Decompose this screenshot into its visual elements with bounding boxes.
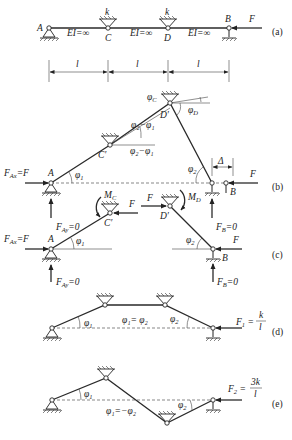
svg-text:φ2: φ2: [178, 400, 187, 411]
angle-diff-label: φ₂−φ₁: [130, 146, 154, 156]
svg-text:FB=0: FB=0: [215, 222, 237, 233]
node-label-a: A: [47, 168, 54, 178]
svg-text:φ2: φ2: [170, 314, 179, 325]
span-label: l: [76, 59, 79, 69]
stiffness-label: EI=∞: [66, 28, 89, 38]
moment-arrow-icon: [96, 197, 101, 217]
node-label-c: C: [105, 33, 112, 43]
svg-text:φ1: φ1: [84, 389, 93, 400]
angle-diff-label: φ₂−φ₁: [131, 120, 155, 130]
svg-text:FAx=F: FAx=F: [3, 168, 29, 179]
span-label: l: [136, 59, 139, 69]
svg-text:φ2: φ2: [186, 235, 195, 246]
svg-text:l: l: [254, 389, 257, 399]
panel-label-e: (e): [272, 399, 283, 410]
svg-text:FAy=0: FAy=0: [55, 277, 80, 288]
svg-text:A: A: [47, 234, 54, 244]
node-label-d: D′: [159, 110, 170, 120]
svg-text:l: l: [259, 322, 262, 332]
spring-label: k: [165, 7, 170, 17]
angle-relation-label: φ₁= φ₂: [122, 315, 149, 325]
svg-text:D′: D′: [159, 211, 170, 221]
svg-text:φ1: φ1: [75, 170, 84, 181]
force-label: F: [249, 169, 256, 179]
svg-text:F: F: [146, 193, 153, 203]
svg-text:FAy=0: FAy=0: [55, 222, 80, 233]
svg-text:k: k: [259, 310, 264, 320]
panel-label-b: (b): [272, 182, 283, 193]
moment-arrow-icon: [180, 190, 185, 210]
svg-text:φ2: φ2: [188, 164, 197, 175]
panel-a: A C D B F k k EI=∞ EI=∞ EI=∞ (a) l l l: [36, 7, 283, 82]
node-label-b: B: [225, 14, 231, 24]
panel-c: FAx=F A C′ MC F φ1 F MD D′ B F φ2 FAy=0 …: [3, 190, 283, 288]
svg-text:FAx=F: FAx=F: [3, 234, 29, 245]
svg-text:3k: 3k: [250, 377, 261, 387]
panel-label-d: (d): [272, 327, 283, 338]
svg-text:C′: C′: [104, 218, 113, 228]
force-label: F: [248, 14, 255, 24]
svg-text:φ1: φ1: [76, 236, 85, 247]
panel-d: φ1 φ2 φ₁= φ₂ F1 = k l (d): [43, 293, 283, 341]
span-label: l: [197, 59, 200, 69]
svg-text:F1 =: F1 =: [235, 317, 254, 328]
structural-diagram: A C D B F k k EI=∞ EI=∞ EI=∞ (a) l l l: [0, 0, 292, 440]
node-label-c: C′: [98, 150, 107, 160]
svg-text:φD: φD: [188, 105, 198, 116]
node-label-d: D: [163, 33, 171, 43]
panel-label-c: (c): [272, 250, 283, 261]
svg-text:MD: MD: [187, 192, 201, 203]
svg-text:MC: MC: [103, 190, 117, 201]
panel-b: Δ FAx=F A C′ D′ B F φ1 φ2 φC φD φ₂−φ₁ φ₂…: [3, 91, 283, 233]
svg-text:F2 =: F2 =: [227, 384, 246, 395]
svg-text:φ1: φ1: [84, 318, 93, 329]
angle-relation-label: φ₁=−φ₂: [106, 406, 137, 416]
node-label-b: B: [230, 187, 236, 197]
svg-text:FB=0: FB=0: [216, 277, 238, 288]
node-label-a: A: [36, 23, 43, 33]
stiffness-label: EI=∞: [129, 28, 152, 38]
svg-text:B: B: [222, 253, 228, 263]
stiffness-label: EI=∞: [187, 28, 210, 38]
delta-label: Δ: [217, 156, 224, 166]
svg-text:F: F: [232, 235, 239, 245]
svg-text:F: F: [128, 199, 135, 209]
svg-text:φC: φC: [147, 92, 157, 103]
spring-label: k: [105, 7, 110, 17]
panel-label-a: (a): [272, 27, 283, 38]
panel-e: φ1 φ2 φ₁=−φ₂ F2 = 3k l (e): [43, 366, 283, 425]
